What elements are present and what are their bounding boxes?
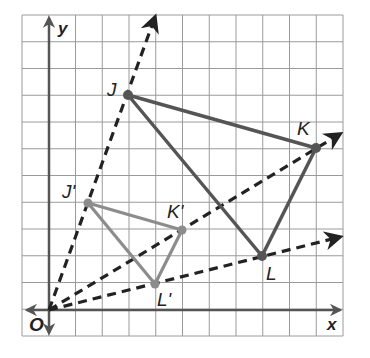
x-axis-label: x [326,315,338,334]
label-k: K [297,118,311,139]
coordinate-grid [22,15,343,336]
axes: y x O [27,18,340,335]
origin-label: O [29,314,44,335]
point-j-prime [84,199,93,208]
ray-through-l [49,237,340,310]
label-k-prime: K' [167,201,185,222]
point-k-prime [178,226,187,235]
point-j [123,90,133,100]
label-l-prime: L' [157,289,173,310]
dilation-diagram: y x O J K L J' K' L' [0,0,370,358]
point-k [311,143,321,153]
point-l-prime [151,280,160,289]
label-j-prime: J' [61,181,77,202]
dilation-rays [49,17,340,310]
y-axis-label: y [57,19,69,38]
ray-through-k [49,134,340,310]
triangle-jkl: J K L [106,79,321,284]
label-l: L [266,263,277,284]
label-j: J [106,79,117,100]
point-l [257,251,267,261]
